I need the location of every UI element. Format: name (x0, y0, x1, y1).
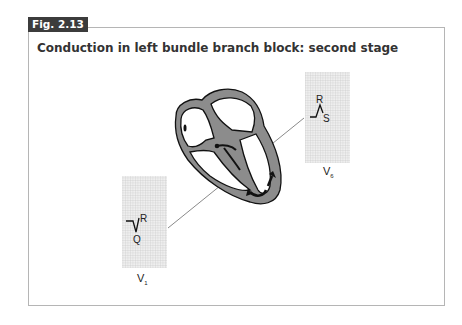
wave-label-r-v6: R (316, 94, 323, 105)
lead-label-v6: V6 (323, 165, 334, 179)
lead-label-v1: V1 (137, 272, 148, 286)
heart-conduction-diagram: R S V6 R Q V1 (0, 0, 462, 325)
wave-label-r-v1: R (140, 213, 147, 224)
wave-label-s-v6: S (323, 113, 330, 124)
wave-label-q-v1: Q (133, 234, 141, 245)
